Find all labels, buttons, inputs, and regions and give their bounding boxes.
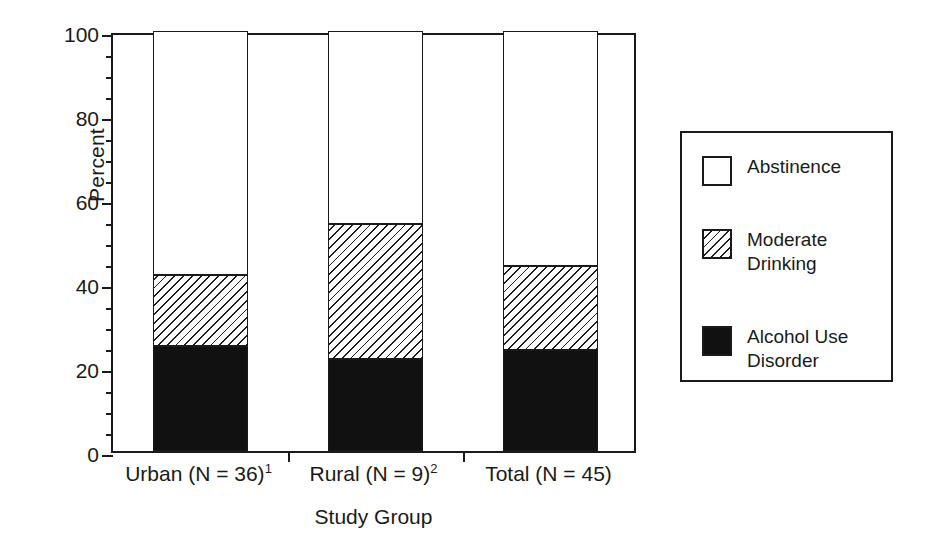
tick-mark bbox=[102, 203, 113, 205]
footnote-marker: 1 bbox=[265, 461, 272, 476]
tick-mark bbox=[102, 287, 113, 289]
x-tick-mark bbox=[463, 451, 465, 462]
x-axis-title: Study Group bbox=[111, 505, 636, 529]
legend-swatch-white-square bbox=[702, 156, 732, 186]
tick-mark bbox=[106, 434, 113, 436]
bar-segment-alcohol-use-disorder bbox=[503, 350, 598, 451]
stacked-bar-chart-figure: Percent 020406080100 Urban (N = 36)1Rura… bbox=[0, 0, 936, 559]
legend-label: Moderate Drinking bbox=[747, 228, 827, 276]
tick-mark bbox=[102, 455, 113, 457]
stacked-bar bbox=[153, 31, 248, 451]
bar-segment-moderate-drinking bbox=[153, 275, 248, 346]
bar-segment-abstinence bbox=[328, 31, 423, 224]
legend-item[interactable]: Alcohol Use Disorder bbox=[702, 325, 848, 373]
tick-mark bbox=[106, 392, 113, 394]
tick-mark bbox=[106, 350, 113, 352]
tick-mark bbox=[102, 35, 113, 37]
legend-label: Alcohol Use Disorder bbox=[747, 325, 848, 373]
tick-mark bbox=[106, 266, 113, 268]
x-tick-label: Total (N = 45) bbox=[461, 462, 636, 486]
stacked-bar bbox=[328, 31, 423, 451]
tick-mark bbox=[106, 182, 113, 184]
y-tick-label: 100 bbox=[64, 23, 99, 47]
stacked-bar bbox=[503, 31, 598, 451]
tick-mark bbox=[106, 77, 113, 79]
y-tick-label: 40 bbox=[76, 275, 99, 299]
x-tick-mark bbox=[288, 451, 290, 462]
tick-mark bbox=[106, 329, 113, 331]
y-tick-label: 60 bbox=[76, 191, 99, 215]
bar-segment-moderate-drinking bbox=[503, 266, 598, 350]
y-tick-label: 80 bbox=[76, 107, 99, 131]
tick-mark bbox=[106, 413, 113, 415]
footnote-marker: 2 bbox=[430, 461, 437, 476]
bar-segment-alcohol-use-disorder bbox=[153, 346, 248, 451]
tick-mark bbox=[102, 119, 113, 121]
legend-item[interactable]: Abstinence bbox=[702, 155, 841, 186]
y-tick-label: 0 bbox=[87, 443, 99, 467]
x-tick-label: Urban (N = 36)1 bbox=[111, 462, 286, 486]
bar-segment-moderate-drinking bbox=[328, 224, 423, 358]
legend-label: Abstinence bbox=[747, 155, 841, 179]
bar-segment-abstinence bbox=[503, 31, 598, 266]
tick-mark bbox=[106, 308, 113, 310]
tick-mark bbox=[106, 56, 113, 58]
legend-swatch-black-square bbox=[702, 326, 732, 356]
x-tick-label: Rural (N = 9)2 bbox=[286, 462, 461, 486]
tick-mark bbox=[106, 140, 113, 142]
tick-mark bbox=[102, 371, 113, 373]
legend-item[interactable]: Moderate Drinking bbox=[702, 228, 827, 276]
tick-mark bbox=[106, 161, 113, 163]
tick-mark bbox=[106, 245, 113, 247]
tick-mark bbox=[106, 98, 113, 100]
tick-mark bbox=[106, 224, 113, 226]
y-tick-label: 20 bbox=[76, 359, 99, 383]
bar-segment-abstinence bbox=[153, 31, 248, 275]
legend: AbstinenceModerate DrinkingAlcohol Use D… bbox=[680, 131, 893, 382]
plot-area: 020406080100 bbox=[111, 33, 636, 453]
legend-swatch-hatched-square bbox=[702, 229, 732, 259]
bar-segment-alcohol-use-disorder bbox=[328, 359, 423, 451]
